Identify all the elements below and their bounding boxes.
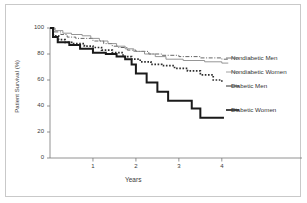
y-tick-label: 80 [0, 50, 44, 56]
y-tick-label: 20 [0, 128, 44, 134]
legend-label-0: Nondiabetic Men [231, 54, 277, 61]
x-tick-label: 4 [212, 163, 232, 169]
y-tick-label: 0 [0, 154, 44, 160]
legend-label-1: Nondiabetic Women [231, 68, 287, 75]
legend-label-3: Diabetic Women [231, 106, 276, 113]
series-lines [50, 28, 228, 118]
x-axis-title: Years [125, 176, 141, 183]
legend-label-2: Diabetic Men [231, 82, 267, 89]
survival-chart [0, 0, 307, 203]
figure-container: 020406080100 1234 Nondiabetic MenNondiab… [0, 0, 307, 203]
x-tick-label: 1 [83, 163, 103, 169]
y-tick-label: 60 [0, 76, 44, 82]
x-tick-label: 2 [126, 163, 146, 169]
x-tick-label: 3 [169, 163, 189, 169]
y-axis-title: Patient Survival (%) [14, 60, 20, 113]
series-line-3 [50, 28, 224, 118]
y-tick-label: 100 [0, 24, 44, 30]
y-tick-label: 40 [0, 102, 44, 108]
